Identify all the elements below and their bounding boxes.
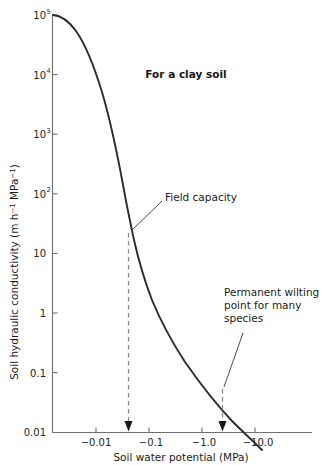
hydraulic-conductivity-chart: 10 5 10 4 10 3 10 2 10 1 0.1 0.01 — [0, 0, 322, 465]
y-tick-label-1e3-base: 10 — [33, 129, 46, 140]
plot-annotation-title: For a clay soil — [145, 68, 226, 80]
y-tick-label-1e3: 10 3 — [33, 127, 50, 141]
y-axis-title: Soil hydraulic conductivity (m h−1 MPa−1… — [8, 164, 20, 380]
wilting-point-arrow-icon — [219, 421, 227, 432]
y-tick-label-1e5-base: 10 — [33, 10, 46, 21]
y-tick-label-1e4-base: 10 — [33, 70, 46, 81]
field-capacity-label: Field capacity — [165, 191, 237, 203]
y-tick-label-1e5-exp: 5 — [47, 8, 51, 16]
x-tick-label-1.0: −1.0 — [192, 437, 216, 448]
y-tick-label-0.01: 0.01 — [24, 427, 46, 438]
x-tick-label-0.01: −0.01 — [81, 437, 112, 448]
wilting-point-label-line1: Permanent wilting — [224, 286, 319, 298]
y-axis-title-mid: MPa — [8, 179, 20, 204]
x-axis-title: Soil water potential (MPa) — [113, 451, 248, 463]
y-tick-label-1e2: 10 2 — [33, 186, 50, 200]
y-tick-label-1e2-base: 10 — [33, 189, 46, 200]
field-capacity-leader-line — [131, 201, 162, 231]
y-axis-title-sup1: −1 — [9, 203, 17, 213]
y-tick-label-10: 10 — [33, 248, 46, 259]
x-axis-ticks: −0.01 −0.1 −1.0 −10.0 — [81, 428, 274, 449]
y-tick-label-1e3-exp: 3 — [47, 127, 51, 135]
y-axis-title-sup2: −1 — [9, 168, 17, 178]
field-capacity-arrow-icon — [125, 421, 133, 432]
wilting-point-label-line2: point for many — [224, 299, 301, 311]
wilting-point-label-line3: species — [224, 312, 263, 324]
y-tick-label-0.1: 0.1 — [30, 368, 46, 379]
y-axis-title-text: Soil hydraulic conductivity (m h−1 MPa−1… — [8, 164, 20, 380]
y-tick-label-1e5: 10 5 — [33, 8, 50, 22]
wilting-point-annotation: Permanent wilting point for many species — [219, 286, 320, 432]
wilting-point-leader-line — [224, 333, 243, 387]
y-tick-label-1e4: 10 4 — [33, 67, 50, 81]
x-tick-label-0.1: −0.1 — [139, 437, 163, 448]
y-axis-title-tail: ) — [8, 164, 20, 168]
y-tick-label-1e2-exp: 2 — [47, 186, 51, 194]
y-tick-label-1e4-exp: 4 — [47, 67, 51, 75]
y-tick-label-1: 1 — [40, 308, 46, 319]
figure-container: 10 5 10 4 10 3 10 2 10 1 0.1 0.01 — [0, 0, 322, 465]
y-axis-title-lead: Soil hydraulic conductivity (m h — [8, 214, 20, 380]
field-capacity-annotation: Field capacity — [125, 191, 237, 432]
conductivity-curve — [53, 15, 262, 450]
